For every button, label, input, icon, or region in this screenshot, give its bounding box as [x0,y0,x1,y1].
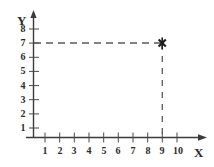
y-tick-label-2: 2 [21,109,26,119]
y-tick-label-1: 1 [21,123,26,133]
x-axis-label: X [194,146,203,159]
x-tick-label-8: 8 [146,146,151,156]
y-axis-arrowhead [30,10,36,18]
y-tick-label-5: 5 [21,66,26,76]
x-tick-label-1: 1 [43,146,48,156]
x-axis [26,134,207,140]
x-tick-label-3: 3 [72,146,77,156]
x-tick-label-5: 5 [102,146,107,156]
plot-canvas [0,0,214,167]
y-tick-label-6: 6 [21,52,26,62]
x-tick-label-6: 6 [116,146,121,156]
x-tick-label-10: 10 [173,146,183,156]
x-tick-label-9: 9 [160,146,165,156]
guide-lines [34,43,162,136]
x-tick-label-4: 4 [87,146,92,156]
y-tick-label-7: 7 [21,38,26,48]
x-tick-label-7: 7 [131,146,136,156]
coordinate-plane-figure: Y X 1 2 3 4 5 6 7 8 1 2 3 4 5 6 7 8 9 10 [0,0,214,167]
x-tick-label-2: 2 [58,146,63,156]
x-axis-arrowhead [198,134,207,140]
y-tick-label-3: 3 [21,95,26,105]
y-tick-label-4: 4 [21,81,26,91]
y-tick-label-8: 8 [21,24,26,34]
